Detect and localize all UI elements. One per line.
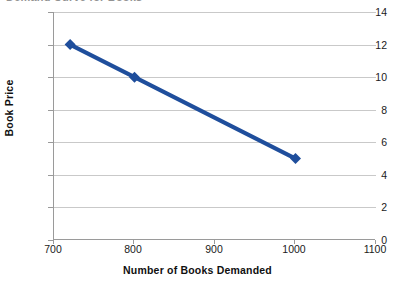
x-tick-label-800: 800 <box>108 244 158 255</box>
x-tick-label-1000: 1000 <box>269 244 319 255</box>
x-tick-label-1100: 1100 <box>350 244 395 255</box>
chart-figure: Demand Curve for Books Book Price 14 12 … <box>0 0 395 284</box>
series-line-demand <box>70 45 295 159</box>
x-axis-title: Number of Books Demanded <box>0 264 395 276</box>
plot-area <box>53 12 375 240</box>
data-series-demand <box>54 12 376 240</box>
chart-title: Demand Curve for Books <box>0 0 395 3</box>
x-tick-label-900: 900 <box>189 244 239 255</box>
x-tick-label-700: 700 <box>28 244 78 255</box>
y-axis-title: Book Price <box>3 68 15 148</box>
